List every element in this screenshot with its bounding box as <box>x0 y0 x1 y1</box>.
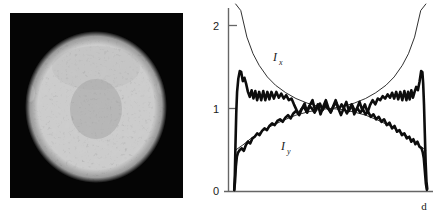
speckle-image-svg <box>10 13 183 198</box>
plot-curves <box>234 4 427 190</box>
curve-iy-measured <box>234 103 427 190</box>
intensity-plot-panel: 2 1 0 d I x I y <box>205 0 444 216</box>
curve-label-iy-main: I <box>280 139 286 153</box>
y-tick-label-0: 0 <box>213 185 219 197</box>
curve-label-iy: I y <box>280 139 291 156</box>
curve-label-ix-sub: x <box>278 58 283 67</box>
curve-label-iy-sub: y <box>286 147 291 156</box>
curve-label-ix-main: I <box>272 50 278 64</box>
beam-disc <box>10 13 183 198</box>
y-tick-label-2: 2 <box>213 20 219 32</box>
x-axis-label: d <box>421 200 427 212</box>
curve-label-ix: I x <box>272 50 283 67</box>
y-tick-label-1: 1 <box>213 103 219 115</box>
speckle-image-panel <box>10 13 183 198</box>
figure-root: 2 1 0 d I x I y <box>0 0 444 216</box>
intensity-plot-svg: 2 1 0 d I x I y <box>205 0 444 216</box>
